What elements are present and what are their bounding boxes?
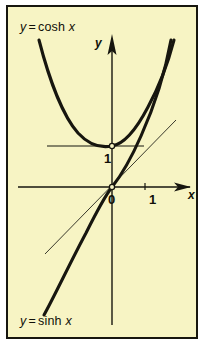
curve-cosh: [39, 40, 174, 147]
label-sinh-equals: =: [28, 314, 36, 328]
label-cosh-x: x: [69, 20, 75, 34]
label-cosh-equals: =: [28, 20, 36, 34]
label-curve-sinh: y=sinh x: [20, 315, 72, 328]
x-axis-label: x: [188, 189, 195, 201]
figure-container: y=cosh x y=sinh x y x 0 1 1: [0, 0, 210, 347]
marker-origin: [109, 184, 114, 189]
origin-label: 0: [108, 193, 115, 206]
curve-sinh: [44, 40, 171, 315]
marker-cosh-minimum: [109, 143, 114, 148]
y-tick-label-1: 1: [104, 152, 111, 165]
x-tick-label-1: 1: [149, 193, 156, 206]
figure-frame: y=cosh x y=sinh x y x 0 1 1: [6, 5, 198, 339]
label-cosh-fn: cosh: [38, 20, 65, 34]
label-sinh-x: x: [65, 314, 71, 328]
label-sinh-fn: sinh: [38, 314, 62, 328]
y-axis-label: y: [95, 37, 102, 49]
graph-canvas: [8, 7, 196, 337]
label-curve-cosh: y=cosh x: [20, 21, 75, 34]
label-sinh-y: y: [20, 314, 26, 328]
label-cosh-y: y: [20, 20, 26, 34]
